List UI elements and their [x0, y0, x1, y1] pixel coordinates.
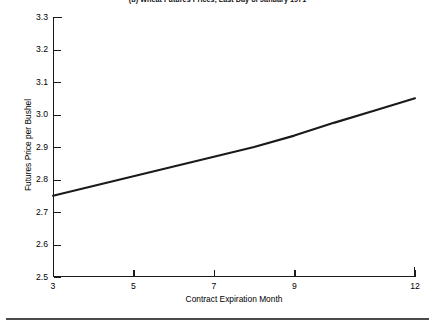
x-tick-label: 3 — [51, 281, 56, 291]
x-tick-label: 9 — [292, 281, 297, 291]
chart-title: (b) Wheat Futures Prices, Last Day of Ja… — [0, 0, 435, 5]
y-tick-label: 2.5 — [36, 272, 48, 282]
y-axis-title: Futures Price per Bushel — [23, 65, 33, 225]
x-tick-label: 12 — [410, 281, 420, 291]
series-line-wheat-futures — [53, 98, 415, 196]
x-tick-label: 5 — [131, 281, 136, 291]
y-tick-label: 3.1 — [36, 77, 48, 87]
y-tick-label: 3.2 — [36, 44, 48, 54]
y-tick-label: 3.3 — [36, 12, 48, 22]
y-tick-label: 2.6 — [36, 239, 48, 249]
series-line-chart — [53, 17, 415, 277]
x-axis-title: Contract Expiration Month — [53, 294, 415, 304]
footer-divider — [6, 318, 429, 320]
plot-area: 2.52.62.72.82.93.03.13.23.3 357912 — [53, 17, 415, 277]
y-tick-mark — [54, 277, 61, 278]
y-tick-label: 2.9 — [36, 142, 48, 152]
y-tick-label: 3.0 — [36, 109, 48, 119]
y-tick-label: 2.7 — [36, 207, 48, 217]
x-tick-mark — [415, 270, 416, 277]
y-tick-label: 2.8 — [36, 174, 48, 184]
x-tick-label: 7 — [211, 281, 216, 291]
figure-container: (b) Wheat Futures Prices, Last Day of Ja… — [0, 0, 435, 326]
